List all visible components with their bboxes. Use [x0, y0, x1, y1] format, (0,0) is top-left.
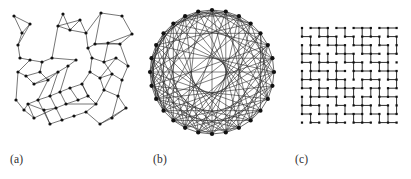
graph-edge: [100, 108, 126, 124]
graph-edge: [152, 24, 174, 59]
graph-edge: [16, 100, 24, 110]
graph-edge: [60, 88, 70, 92]
lattice-node: [335, 27, 337, 29]
graph-edge: [30, 60, 42, 62]
graph-node: [120, 78, 123, 81]
graph-node: [124, 106, 127, 109]
graph-edge: [101, 13, 122, 16]
lattice-node: [387, 87, 389, 89]
lattice-node: [361, 36, 363, 38]
lattice-node: [387, 104, 389, 106]
graph-edge: [120, 34, 132, 44]
graph-node: [237, 126, 241, 130]
lattice-node: [396, 79, 398, 81]
lattice-node: [310, 87, 312, 89]
lattice-node: [387, 44, 389, 46]
graph-edge: [150, 72, 198, 132]
graph-node: [32, 82, 35, 85]
lattice-node: [318, 113, 320, 115]
lattice-node: [396, 104, 398, 106]
graph-edge: [50, 120, 62, 124]
graph-edge: [173, 12, 225, 24]
lattice-node: [370, 27, 372, 29]
graph-edge: [60, 92, 66, 104]
graph-edge: [26, 76, 34, 84]
graph-edge: [66, 100, 78, 104]
lattice-node: [310, 27, 312, 29]
lattice-node: [301, 27, 303, 29]
graph-node: [61, 12, 64, 15]
graph-edge: [70, 88, 78, 100]
graph-node: [76, 98, 79, 101]
lattice-node: [353, 27, 355, 29]
lattice-node: [361, 79, 363, 81]
lattice-node: [361, 122, 363, 124]
lattice-node: [310, 70, 312, 72]
graph-edge: [56, 104, 66, 108]
graph-edge: [86, 33, 88, 48]
graph-node: [266, 97, 270, 101]
graph-node: [116, 94, 119, 97]
lattice-node: [318, 87, 320, 89]
lattice-node: [327, 122, 329, 124]
graph-edge: [104, 43, 108, 62]
lattice-node: [370, 87, 372, 89]
graph-node: [149, 84, 153, 88]
lattice-node: [387, 113, 389, 115]
panel-b-label: (b): [153, 154, 167, 166]
lattice-node: [396, 87, 398, 89]
graph-node: [72, 114, 75, 117]
graph-edge: [52, 58, 76, 60]
lattice-node: [301, 122, 303, 124]
lattice-node: [378, 96, 380, 98]
lattice-node: [335, 44, 337, 46]
lattice-percolation-plot: [285, 0, 411, 145]
graph-edge: [14, 16, 30, 24]
graph-edge: [70, 84, 82, 88]
graph-node: [12, 14, 15, 17]
figure-container: (a) (b) (c): [0, 0, 411, 179]
lattice-node: [378, 87, 380, 89]
lattice-node: [335, 79, 337, 81]
lattice-node: [370, 70, 372, 72]
lattice-node: [387, 70, 389, 72]
lattice-node: [344, 104, 346, 106]
lattice-node: [301, 87, 303, 89]
graph-node: [183, 126, 187, 130]
lattice-node: [378, 70, 380, 72]
graph-node: [183, 14, 187, 18]
graph-node: [237, 14, 241, 18]
graph-edge: [226, 24, 251, 133]
graph-node: [98, 122, 101, 125]
graph-node: [102, 60, 105, 63]
graph-edge: [63, 14, 70, 30]
lattice-node: [310, 53, 312, 55]
graph-edge: [70, 30, 86, 33]
lattice-node: [361, 104, 363, 106]
graph-node: [56, 70, 59, 73]
lattice-node: [310, 104, 312, 106]
lattice-node: [396, 61, 398, 63]
graph-edge: [26, 72, 40, 76]
lattice-node: [353, 113, 355, 115]
graph-node: [56, 24, 59, 27]
lattice-node: [335, 104, 337, 106]
lattice-node: [327, 27, 329, 29]
graph-edge: [50, 92, 60, 96]
graph-node: [130, 32, 133, 35]
graph-node: [93, 42, 96, 45]
lattice-node: [370, 79, 372, 81]
lattice-node: [387, 61, 389, 63]
lattice-node: [396, 44, 398, 46]
graph-edge: [62, 116, 74, 120]
lattice-node: [361, 96, 363, 98]
lattice-node: [361, 61, 363, 63]
lattice-node: [301, 61, 303, 63]
lattice-node: [327, 44, 329, 46]
panel-c-label: (c): [295, 154, 308, 166]
graph-edge: [104, 90, 118, 96]
lattice-node: [318, 122, 320, 124]
lattice-node: [396, 113, 398, 115]
lattice-node: [344, 27, 346, 29]
graph-node: [86, 46, 89, 49]
